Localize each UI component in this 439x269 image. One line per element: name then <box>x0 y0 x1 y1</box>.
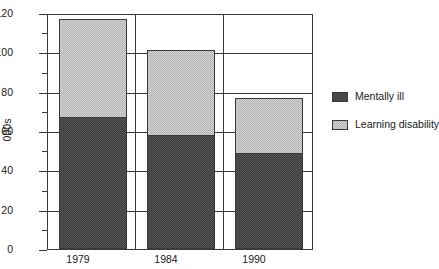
y-tick-label-80: 80 <box>1 87 13 97</box>
plot-area <box>47 14 313 250</box>
bar-1979-mentally-ill <box>59 117 127 249</box>
y-tick-label-120: 120 <box>0 8 13 18</box>
y-tick-label-100: 100 <box>0 47 13 57</box>
x-tick-label-1984: 1984 <box>116 253 216 265</box>
bar-1984-learning-disability <box>147 50 215 136</box>
x-tick-label-1990: 1990 <box>204 253 304 265</box>
chart-legend: Mentally ill Learning disability <box>332 90 432 146</box>
bar-1984[interactable] <box>147 50 215 249</box>
bar-1979[interactable] <box>59 19 127 249</box>
y-tick-label-60: 60 <box>1 126 13 136</box>
bar-1990[interactable] <box>235 98 303 249</box>
y-tick-label-20: 20 <box>1 205 13 215</box>
panel-divider-2 <box>223 15 224 249</box>
panel-divider-1 <box>135 15 136 249</box>
legend-label-mentally-ill: Mentally ill <box>355 90 404 103</box>
y-tick-label-0: 0 <box>7 244 13 254</box>
legend-swatch-learning-disability <box>332 120 348 130</box>
bar-1984-mentally-ill <box>147 135 215 249</box>
legend-item-learning-disability[interactable]: Learning disability <box>332 118 432 146</box>
legend-label-learning-disability: Learning disability <box>355 118 439 131</box>
legend-swatch-mentally-ill <box>332 92 348 102</box>
bar-1979-learning-disability <box>59 19 127 118</box>
legend-item-mentally-ill[interactable]: Mentally ill <box>332 90 432 118</box>
y-tick-label-40: 40 <box>1 165 13 175</box>
x-tick-label-1979: 1979 <box>28 253 128 265</box>
y-axis: 000s 120 100 80 60 40 20 0 <box>0 0 47 269</box>
bar-1990-learning-disability <box>235 98 303 154</box>
bar-1990-mentally-ill <box>235 153 303 249</box>
